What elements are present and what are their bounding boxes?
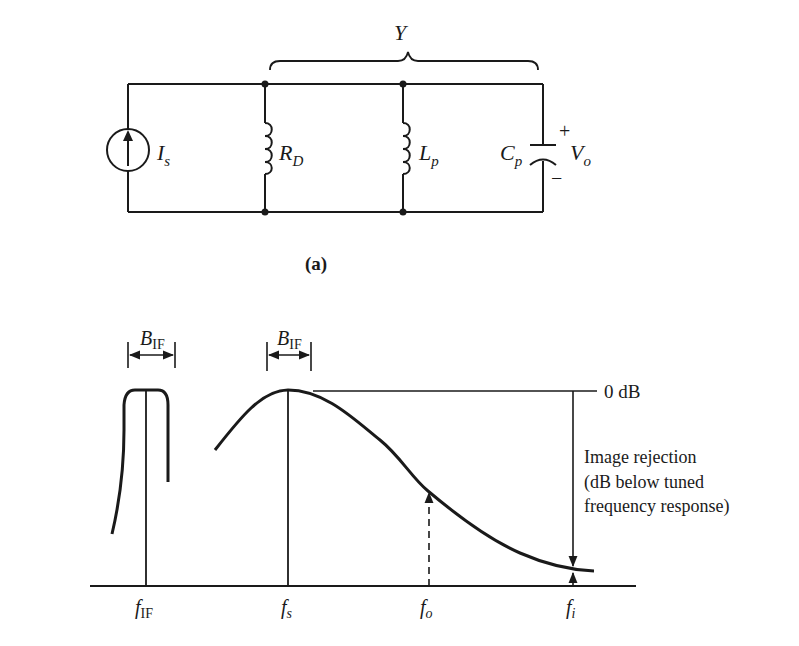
label-is: Is <box>156 140 170 169</box>
response-plot <box>90 342 636 586</box>
label-lp: Lp <box>418 140 439 169</box>
resistor-rd-coil-icon <box>265 123 272 174</box>
tick-label-f-i: fi <box>566 596 576 621</box>
label-y: Y <box>394 20 409 45</box>
label-rd: RD <box>278 140 303 169</box>
rf-response-curve <box>215 390 594 571</box>
circuit-diagram <box>107 52 556 216</box>
if-response-curve <box>112 390 168 534</box>
inductor-lp-coil-icon <box>403 123 410 174</box>
image-rejection-annotation: Image rejection (dB below tuned frequenc… <box>584 447 729 517</box>
label-plus: + <box>559 120 570 142</box>
tick-label-f-o: fo <box>420 596 433 621</box>
tick-label-f-if: fIF <box>135 596 153 621</box>
admittance-brace-icon <box>270 52 538 70</box>
label-cp: Cp <box>500 140 523 169</box>
plot-labels: BIF BIF 0 dB Image rejection (dB below t… <box>135 327 729 621</box>
label-b-if-left: BIF <box>140 327 165 352</box>
current-source-icon <box>107 129 149 171</box>
figure-caption-a: (a) <box>305 253 327 275</box>
circuit-wires <box>128 84 543 212</box>
tick-label-f-s: fs <box>281 596 293 621</box>
circuit-labels: Y Is RD Lp Cp + − Vo (a) <box>156 20 591 275</box>
label-minus: − <box>551 167 562 189</box>
label-b-if-right: BIF <box>277 327 302 352</box>
label-vo: Vo <box>570 140 591 169</box>
label-zero-db: 0 dB <box>604 381 640 402</box>
diagram-canvas: Y Is RD Lp Cp + − Vo (a) <box>0 0 799 646</box>
